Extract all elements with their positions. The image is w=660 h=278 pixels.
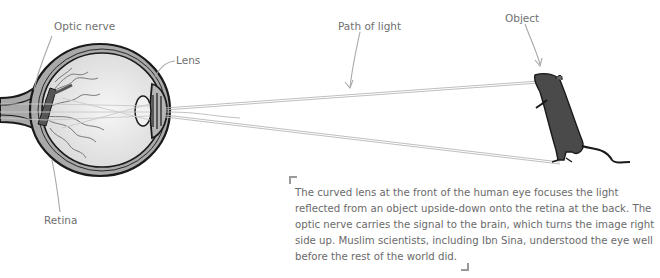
rat-object [534, 74, 630, 163]
label-lens: Lens [176, 54, 200, 66]
label-retina: Retina [44, 214, 77, 226]
label-object: Object [505, 12, 539, 24]
caption-bracket-top-left [289, 176, 297, 184]
label-path-of-light: Path of light [338, 20, 401, 32]
caption-text: The curved lens at the front of the huma… [295, 185, 655, 265]
caption: The curved lens at the front of the huma… [295, 185, 655, 265]
caption-bracket-bottom-right [461, 263, 469, 271]
label-optic-nerve: Optic nerve [54, 20, 115, 32]
light-path [165, 80, 560, 164]
